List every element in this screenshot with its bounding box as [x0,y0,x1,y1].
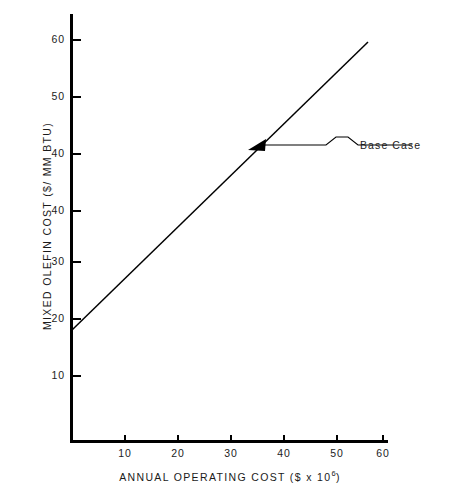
y-axis-title: MIXED OLEFIN COST ($/ MM BTU) [41,86,53,366]
annotation-arrow-head [248,139,266,151]
x-axis-title-suffix: ) [336,471,341,483]
x-axis-title-main: ANNUAL OPERATING COST ($ x 10 [119,471,331,483]
x-axis-title: ANNUAL OPERATING COST ($ x 106) [60,469,400,483]
data-series-line [72,42,368,330]
plot-area [0,0,451,497]
base-case-annotation-label: Base Case [360,139,421,151]
chart-figure: 60 50 40 40 30 20 10 10 20 30 40 50 60 B… [0,0,451,497]
